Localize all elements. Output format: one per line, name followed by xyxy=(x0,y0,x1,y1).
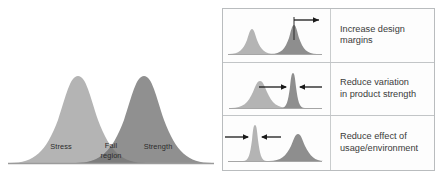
remedy-text-reduce-effect-usage: Reduce effect of usage/environment xyxy=(331,131,434,154)
thumb-svg-1 xyxy=(223,9,330,62)
remedy-3-line2: usage/environment xyxy=(340,143,430,155)
remedy-text-reduce-variation: Reduce variation in product strength xyxy=(331,77,434,100)
thumb-svg-2 xyxy=(223,63,330,116)
thumb2-stress-curve xyxy=(231,81,289,108)
fail-region-label-line2: region xyxy=(100,151,121,160)
remedy-panel: Increase design margins xyxy=(222,8,435,171)
remedy-row-reduce-variation[interactable]: Reduce variation in product strength xyxy=(223,63,434,117)
thumb3-arrow-head-left-icon xyxy=(261,134,267,140)
thumb2-arrow-head-left-icon xyxy=(299,84,305,90)
stress-strength-figure: Stress Fail region Strength xyxy=(0,0,444,179)
remedy-1-line1: Increase design xyxy=(340,24,430,36)
remedy-2-line1: Reduce variation xyxy=(340,77,430,89)
remedy-row-reduce-effect-usage[interactable]: Reduce effect of usage/environment xyxy=(223,116,434,170)
thumbnail-increase-design-margins xyxy=(223,9,331,62)
remedy-1-line2: margins xyxy=(340,35,430,47)
thumbnail-reduce-effect-usage xyxy=(223,116,331,170)
remedy-3-line1: Reduce effect of xyxy=(340,131,430,143)
remedy-row-increase-design-margins[interactable]: Increase design margins xyxy=(223,9,434,63)
thumbnail-reduce-variation xyxy=(223,63,331,116)
thumb-svg-3 xyxy=(223,116,330,169)
thumb3-strength-curve xyxy=(269,134,324,161)
remedy-text-increase-design-margins: Increase design margins xyxy=(331,24,434,47)
thumb3-arrow-head-right-icon xyxy=(243,134,249,140)
stress-label: Stress xyxy=(50,142,72,151)
fail-region-label-line1: Fail xyxy=(105,141,118,150)
thumb3-stress-narrow-curve xyxy=(243,125,267,161)
main-diagram-svg: Stress Fail region Strength xyxy=(0,0,222,179)
thumb1-arrow-head-right-icon xyxy=(313,17,319,23)
remedy-2-line2: in product strength xyxy=(340,89,430,101)
thumb2-arrow-head-right-icon xyxy=(281,84,287,90)
thumb1-stress-curve xyxy=(229,29,275,54)
main-distribution-diagram: Stress Fail region Strength xyxy=(0,0,222,179)
strength-label: Strength xyxy=(144,142,173,151)
thumb2-strength-narrow-curve xyxy=(281,73,305,108)
